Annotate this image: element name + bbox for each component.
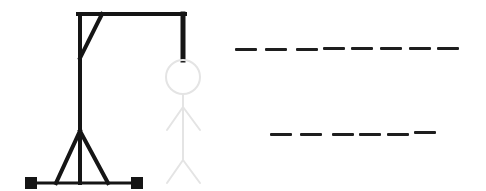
letter-slot <box>296 48 318 51</box>
letter-slot <box>409 47 431 50</box>
letter-slot <box>270 133 292 136</box>
hangman-figure <box>166 60 200 183</box>
letter-slot <box>332 133 354 136</box>
letter-slot <box>414 131 436 134</box>
letter-slot <box>380 47 402 50</box>
letter-slot <box>300 133 322 136</box>
figure-leg-right <box>183 160 200 183</box>
hangman-drawing <box>0 0 486 191</box>
figure-arm-left <box>167 107 183 130</box>
letter-slot <box>437 47 459 50</box>
figure-leg-left <box>167 160 183 183</box>
word-row-second <box>270 133 436 136</box>
word-row-first <box>235 48 459 51</box>
gallows-foot-left <box>25 177 37 189</box>
letter-slot <box>359 133 381 136</box>
letter-slot <box>265 48 287 51</box>
gallows-aframe-left <box>56 131 80 183</box>
letter-slot <box>323 47 345 50</box>
gallows-brace <box>80 14 102 58</box>
letter-slot <box>387 133 409 136</box>
gallows-aframe-right <box>80 131 108 183</box>
letter-slot <box>351 47 373 50</box>
gallows <box>25 14 185 189</box>
letter-slot <box>235 48 257 51</box>
figure-head <box>166 60 200 94</box>
figure-arm-right <box>183 107 200 130</box>
gallows-foot-right <box>131 177 143 189</box>
